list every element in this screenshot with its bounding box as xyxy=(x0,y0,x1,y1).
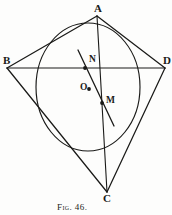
kite-edge-bc xyxy=(7,68,107,192)
geometry-diagram-canvas xyxy=(0,0,172,215)
figure-caption: Fig. 46. xyxy=(57,202,87,212)
figure-caption-number: 46. xyxy=(75,202,87,212)
kite-edge-dc xyxy=(107,68,165,192)
figure-caption-prefix: Fig. xyxy=(57,202,72,212)
vertex-label-c: C xyxy=(103,193,111,204)
point-label-o: O xyxy=(80,83,87,93)
figure-46-container: A B C D N O M Fig. 46. xyxy=(0,0,172,215)
vertex-label-b: B xyxy=(3,55,10,66)
point-m-dot xyxy=(100,101,104,105)
point-label-n: N xyxy=(89,55,96,65)
point-o-dot xyxy=(87,87,91,91)
vertex-label-a: A xyxy=(94,3,102,14)
point-label-m: M xyxy=(106,96,115,106)
point-n-dot xyxy=(83,66,87,70)
vertex-label-d: D xyxy=(163,55,171,66)
kite-edge-ad xyxy=(97,16,165,68)
